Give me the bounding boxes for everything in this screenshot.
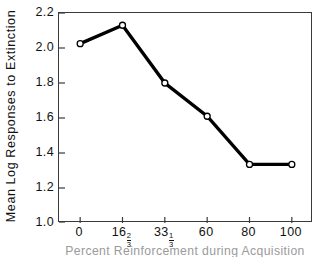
y-tick-label: 2.2 [20, 5, 54, 19]
data-series-line [80, 25, 292, 164]
x-tick-label-whole: 100 [280, 225, 302, 239]
data-point-marker [247, 161, 253, 167]
plot-frame [58, 12, 312, 222]
chart-figure: Mean Log Responses to Extinction 1.01.21… [0, 0, 325, 257]
data-point-marker [204, 113, 210, 119]
x-tick-marks [80, 217, 292, 223]
data-point-marker [289, 161, 295, 167]
x-tick-label-whole: 80 [241, 225, 256, 239]
fraction-numerator: 2 [127, 232, 132, 240]
y-tick-label: 1.6 [20, 110, 54, 124]
data-point-marker [77, 41, 83, 47]
data-point-marker [162, 80, 168, 86]
x-axis-title: Percent Reinforcement during Acquisition [58, 244, 312, 257]
y-axis-title: Mean Log Responses to Extinction [0, 0, 22, 232]
x-tick-label: 100 [264, 225, 318, 239]
y-tick-label: 1.0 [20, 215, 54, 229]
data-point-marker [120, 22, 126, 28]
x-tick-label-whole: 16 [112, 225, 127, 239]
y-tick-marks [59, 13, 65, 223]
y-tick-label: 1.4 [20, 145, 54, 159]
line-plot [59, 13, 313, 223]
x-tick-label-whole: 33 [154, 225, 169, 239]
fraction-numerator: 1 [169, 232, 174, 240]
x-tick-label-whole: 60 [199, 225, 214, 239]
x-tick-label-whole: 0 [75, 225, 82, 239]
y-tick-label: 1.2 [20, 180, 54, 194]
data-point-markers [77, 22, 295, 167]
y-tick-label: 2.0 [20, 40, 54, 54]
y-tick-label: 1.8 [20, 75, 54, 89]
